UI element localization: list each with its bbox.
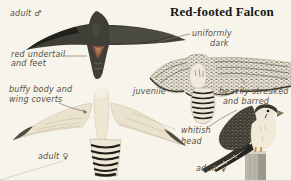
label-juvenile: juvenile bbox=[133, 87, 166, 96]
plate-title: Red-footed Falcon bbox=[170, 4, 274, 20]
label-uniformly-dark-line1: uniformly bbox=[192, 29, 232, 38]
label-whitish-head-line1: whitish bbox=[181, 126, 211, 135]
label-adult-male: adult ♂ bbox=[10, 9, 42, 18]
label-red-undertail-line2: and feet bbox=[11, 59, 46, 68]
label-heavily-streaked-line1: heavily streaked bbox=[219, 87, 289, 96]
label-buffy-body-line2: wing coverts bbox=[9, 95, 62, 104]
label-whitish-head-line2: head bbox=[181, 137, 202, 146]
label-uniformly-dark-line2: dark bbox=[210, 39, 229, 48]
label-red-undertail-line1: red undertail bbox=[11, 50, 65, 59]
label-heavily-streaked-line2: and barred bbox=[223, 97, 269, 106]
label-adult-female-perched: adult ♀ bbox=[196, 164, 226, 173]
faint-pencil-line bbox=[0, 161, 63, 180]
label-buffy-body-line1: buffy body and bbox=[9, 85, 72, 94]
field-guide-plate: Red-footed Falcon adult ♂ red undertail … bbox=[0, 0, 291, 181]
label-adult-female-flight: adult ♀ bbox=[38, 152, 68, 161]
